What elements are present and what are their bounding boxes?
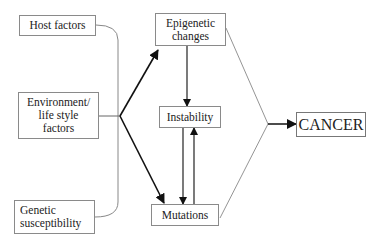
environment-box: Environment/ life style factors [18,92,99,139]
cancer-box: CANCER [296,112,366,137]
instability-box: Instability [159,106,221,128]
host-factors-box: Host factors [19,15,96,36]
genetic-susceptibility-box: Genetic susceptibility [14,200,95,234]
diagram-canvas: Host factors Environment/ life style fac… [0,0,378,247]
mutations-box: Mutations [151,204,219,226]
epigenetic-changes-box: Epigenetic changes [155,13,226,46]
epigenetic-to-convergence [226,28,268,124]
arrow-to-epigenetic [120,50,158,116]
arrow-to-mutations [120,116,164,203]
mutations-to-convergence [220,124,268,218]
